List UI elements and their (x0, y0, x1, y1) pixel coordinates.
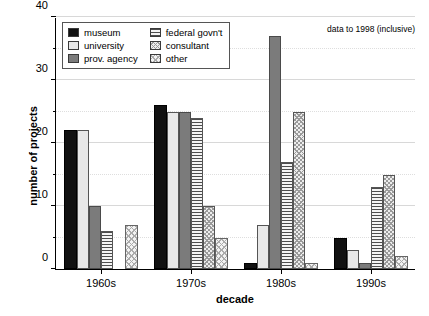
bar (257, 225, 269, 269)
y-tick-major (51, 142, 56, 143)
bar (281, 162, 293, 269)
legend-entry: prov. agency (68, 53, 138, 64)
y-tick-minor (53, 237, 56, 238)
x-axis-title: decade (55, 293, 415, 305)
y-tick-minor (53, 111, 56, 112)
gridline-minor (56, 111, 415, 112)
y-tick-label: 30 (36, 62, 48, 74)
bar (383, 175, 395, 270)
x-tick-label: 1960s (86, 277, 116, 289)
bar (359, 263, 371, 269)
gridline-major (56, 79, 415, 80)
x-tick-mark (191, 269, 192, 274)
legend-label: prov. agency (84, 53, 138, 64)
bar (215, 238, 227, 270)
x-tick-label: 1970s (176, 277, 206, 289)
legend-label: other (166, 53, 188, 64)
y-tick-major (51, 268, 56, 269)
y-tick-label: 0 (42, 251, 48, 263)
legend-label: consultant (166, 40, 209, 51)
bar (395, 256, 407, 269)
bar (269, 36, 281, 269)
legend-label: university (84, 40, 124, 51)
bar (101, 231, 113, 269)
bar (89, 206, 101, 269)
legend-entry: federal govn't (150, 27, 223, 38)
bar (125, 225, 137, 269)
x-tick-mark (101, 269, 102, 274)
legend-swatch-icon (68, 28, 79, 37)
data-coverage-annotation: data to 1998 (inclusive) (327, 24, 415, 34)
legend-entry: museum (68, 27, 138, 38)
bar (154, 105, 166, 269)
bar-chart: number of projects 010203040 1960s1970s1… (0, 0, 429, 316)
y-tick-label: 40 (36, 0, 48, 11)
y-axis-title: number of projects (27, 76, 39, 236)
bar (334, 238, 346, 270)
x-tick-mark (371, 269, 372, 274)
x-tick-mark (281, 269, 282, 274)
bar (203, 206, 215, 269)
bar (179, 112, 191, 270)
bar (305, 263, 317, 269)
y-tick-label: 10 (36, 188, 48, 200)
legend-swatch-icon (68, 54, 79, 63)
legend-entry: consultant (150, 40, 223, 51)
bar (293, 112, 305, 270)
y-tick-minor (53, 174, 56, 175)
gridline-major (56, 205, 415, 206)
gridline-major (56, 142, 415, 143)
x-tick-label: 1990s (356, 277, 386, 289)
y-tick-major (51, 79, 56, 80)
bar (244, 263, 256, 269)
x-tick-label: 1980s (266, 277, 296, 289)
y-tick-major (51, 16, 56, 17)
gridline-major (56, 16, 415, 17)
bar (191, 118, 203, 269)
legend-swatch-icon (68, 41, 79, 50)
bar (167, 112, 179, 270)
bar (347, 250, 359, 269)
bar (64, 130, 76, 269)
gridline-minor (56, 174, 415, 175)
y-tick-label: 20 (36, 125, 48, 137)
y-tick-minor (53, 48, 56, 49)
legend-label: museum (84, 27, 120, 38)
legend-label: federal govn't (166, 27, 223, 38)
legend-entry: university (68, 40, 138, 51)
chart-legend: museumfederal govn'tuniversityconsultant… (62, 22, 230, 69)
bar (371, 187, 383, 269)
legend-entry: other (150, 53, 223, 64)
bar (77, 130, 89, 269)
y-tick-major (51, 205, 56, 206)
legend-swatch-icon (150, 54, 161, 63)
legend-swatch-icon (150, 41, 161, 50)
legend-swatch-icon (150, 28, 161, 37)
